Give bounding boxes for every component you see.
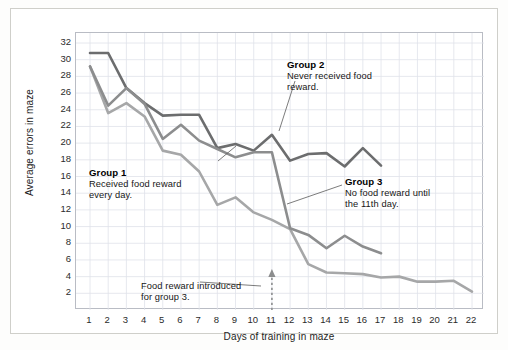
y-tick-label: 6 bbox=[49, 254, 71, 264]
y-tick-label: 4 bbox=[49, 271, 71, 281]
annotation-group-1: Group 1Received food reward every day. bbox=[89, 167, 209, 202]
chart-page: 2468101214161820222426283032 12345678910… bbox=[0, 0, 508, 350]
x-axis-title: Days of training in maze bbox=[75, 331, 483, 342]
y-tick-label: 28 bbox=[49, 70, 71, 80]
y-tick-label: 10 bbox=[49, 221, 71, 231]
y-axis-title: Average errors in maze bbox=[24, 63, 35, 223]
annotation-group-2-title: Group 2 bbox=[287, 59, 397, 70]
y-tick-label: 26 bbox=[49, 87, 71, 97]
annotation-group-3-body: No food reward until the 11th day. bbox=[345, 188, 430, 209]
y-tick-label: 22 bbox=[49, 120, 71, 130]
food-reward-marker-arrowhead bbox=[268, 269, 275, 277]
y-tick-label: 32 bbox=[49, 37, 71, 47]
annotation-group-3-title: Group 3 bbox=[345, 176, 465, 187]
annotation-group-2: Group 2Never received food reward. bbox=[287, 59, 397, 94]
x-tick-label: 22 bbox=[460, 314, 482, 325]
y-tick-label: 2 bbox=[49, 287, 71, 297]
y-tick-label: 16 bbox=[49, 171, 71, 181]
annotation-group-2-body: Never received food reward. bbox=[287, 71, 372, 92]
figure-frame: 2468101214161820222426283032 12345678910… bbox=[10, 8, 498, 334]
y-tick-label: 8 bbox=[49, 237, 71, 247]
annotation-group-1-body: Received food reward every day. bbox=[89, 179, 181, 200]
y-tick-label: 12 bbox=[49, 204, 71, 214]
y-tick-label: 24 bbox=[49, 104, 71, 114]
y-tick-label: 18 bbox=[49, 154, 71, 164]
y-tick-label: 14 bbox=[49, 187, 71, 197]
annotation-intro-body: Food reward introduced for group 3. bbox=[141, 281, 241, 302]
leader-group-3 bbox=[287, 185, 342, 204]
y-tick-label: 30 bbox=[49, 54, 71, 64]
y-axis-ticks: 2468101214161820222426283032 bbox=[47, 32, 71, 309]
leader-group-1 bbox=[218, 146, 236, 161]
annotation-group-3: Group 3No food reward until the 11th day… bbox=[345, 176, 465, 211]
x-axis-ticks: 12345678910111213141516171819202122 bbox=[75, 314, 483, 328]
y-tick-label: 20 bbox=[49, 137, 71, 147]
annotation-food-reward-introduced: Food reward introduced for group 3. bbox=[141, 281, 261, 304]
annotation-group-1-title: Group 1 bbox=[89, 167, 209, 178]
